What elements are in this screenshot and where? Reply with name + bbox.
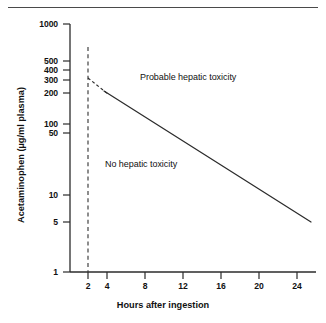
annotation-probable-hepatic-toxicity: Probable hepatic toxicity bbox=[140, 72, 236, 82]
x-tick-label-24: 24 bbox=[287, 281, 307, 291]
x-axis bbox=[70, 272, 316, 279]
x-tick-label-8: 8 bbox=[135, 281, 155, 291]
y-axis-ticks bbox=[63, 24, 70, 272]
annotation-no-hepatic-toxicity: No hepatic toxicity bbox=[105, 159, 177, 169]
nomogram-figure: 1000 500 400 300 200 100 50 10 5 1 2 4 8… bbox=[0, 0, 326, 323]
x-axis-title: Hours after ingestion bbox=[0, 300, 326, 310]
x-axis-ticks bbox=[88, 272, 297, 279]
x-tick-label-20: 20 bbox=[249, 281, 269, 291]
y-axis-title: Acetaminophen (µg/ml plasma) bbox=[16, 70, 26, 240]
x-tick-label-4: 4 bbox=[97, 281, 117, 291]
x-tick-label-2: 2 bbox=[78, 281, 98, 291]
y-tick-label-1000: 1000 bbox=[18, 19, 58, 29]
y-axis bbox=[63, 24, 70, 272]
treatment-line bbox=[104, 91, 311, 222]
x-tick-label-16: 16 bbox=[211, 281, 231, 291]
x-tick-label-12: 12 bbox=[173, 281, 193, 291]
y-tick-label-1: 1 bbox=[18, 267, 58, 277]
